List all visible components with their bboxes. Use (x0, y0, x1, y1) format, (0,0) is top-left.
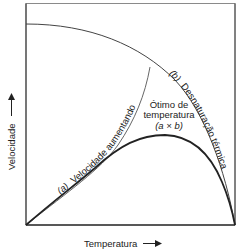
curve-axb-optimum (26, 135, 235, 225)
y-axis-arrow-icon (8, 93, 15, 100)
curve-a-label: (a) Velocidade aumentando (55, 103, 138, 196)
enzyme-temperature-diagram: (b) Desnaturação térmica (a) Velocidade … (0, 0, 241, 249)
x-axis-label: Temperatura (84, 238, 138, 249)
optimum-label-line3: (a × b) (155, 120, 183, 131)
y-axis-label: Velocidade (6, 124, 17, 170)
curve-a-velocity-increasing (26, 67, 150, 225)
optimum-label-line2: temperatura (143, 109, 195, 120)
x-axis-arrow-icon (155, 240, 162, 247)
